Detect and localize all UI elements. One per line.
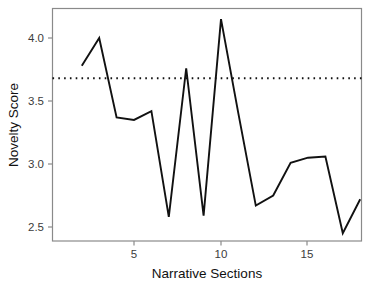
chart-background (0, 0, 378, 290)
novelty-score-chart: 4.0 3.5 3.0 2.5 5 10 15 Narrative Sectio… (0, 0, 378, 290)
y-tick-label-4.0: 4.0 (28, 32, 44, 44)
x-tick-label-10: 10 (215, 248, 228, 260)
y-tick-label-3.5: 3.5 (28, 95, 44, 107)
y-tick-label-3.0: 3.0 (28, 158, 44, 170)
y-axis-title: Novelty Score (6, 83, 21, 167)
x-tick-label-15: 15 (301, 248, 314, 260)
chart-svg: 4.0 3.5 3.0 2.5 5 10 15 Narrative Sectio… (0, 0, 378, 290)
y-tick-label-2.5: 2.5 (28, 221, 44, 233)
x-tick-label-5: 5 (131, 248, 137, 260)
x-axis-title: Narrative Sections (152, 266, 263, 281)
